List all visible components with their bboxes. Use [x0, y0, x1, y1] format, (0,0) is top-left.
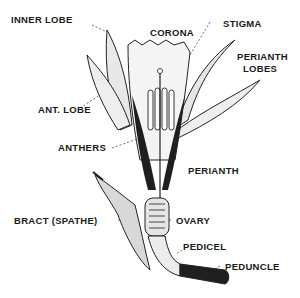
label-inner-lobe: INNER LOBE	[11, 14, 73, 25]
label-stigma: STIGMA	[223, 18, 262, 29]
label-perianth-lobes-line2: LOBES	[243, 63, 277, 74]
label-anthers: ANTHERS	[58, 142, 106, 153]
label-perianth: PERIANTH	[188, 165, 239, 176]
label-corona: CORONA	[150, 27, 194, 38]
flower-diagram: INNER LOBE CORONA STIGMA PERIANTH LOBES …	[0, 0, 300, 298]
label-peduncle: PEDUNCLE	[225, 261, 280, 272]
label-bract-spathe: BRACT (SPATHE)	[14, 215, 98, 226]
flower-illustration	[0, 0, 300, 298]
label-ovary: OVARY	[176, 215, 210, 226]
label-pedicel: PEDICEL	[183, 241, 226, 252]
label-perianth-lobes-line1: PERIANTH	[237, 51, 288, 62]
label-ant-lobe: ANT. LOBE	[38, 104, 91, 115]
